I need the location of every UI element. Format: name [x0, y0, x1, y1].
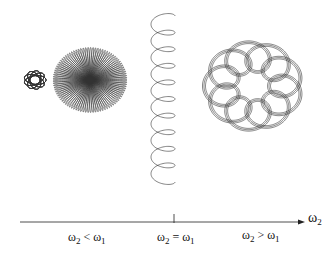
region-label-less: ω2 < ω1 [68, 230, 106, 245]
region-label-greater: ω2 > ω1 [242, 228, 280, 243]
axis-label-omega2: ω2 [308, 210, 322, 226]
region-label-equal: ω2 = ω1 [157, 230, 195, 245]
curve-group [24, 14, 301, 185]
epicycle-figure [0, 0, 336, 260]
loop-ring [203, 41, 302, 131]
helix [151, 14, 175, 185]
arrowhead-icon [298, 220, 305, 225]
large-rosette [53, 47, 127, 112]
loop-ring [204, 42, 300, 129]
frequency-axis [20, 214, 305, 225]
small-rosette [24, 71, 46, 90]
